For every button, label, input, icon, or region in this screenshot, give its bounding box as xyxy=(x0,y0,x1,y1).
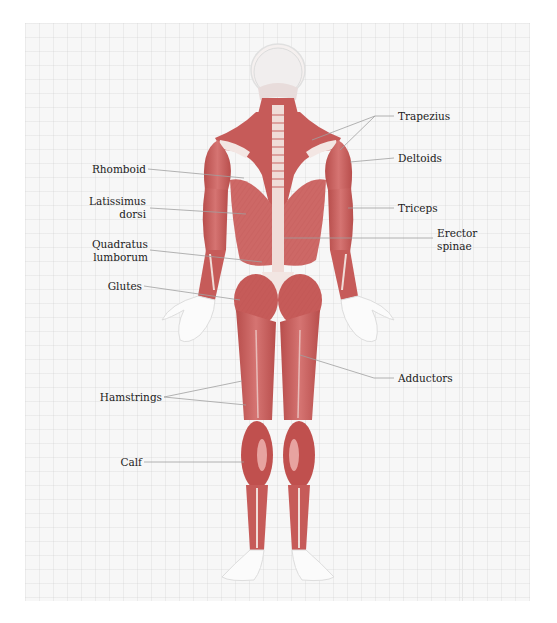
label-calf-text: Calf xyxy=(120,456,142,468)
foot-right xyxy=(292,550,334,581)
label-glutes-text: Glutes xyxy=(108,280,142,292)
label-deltoids: Deltoids xyxy=(398,152,442,165)
label-quadratus-lumborum: Quadratus lumborum xyxy=(76,238,148,264)
label-hamstrings: Hamstrings xyxy=(72,391,162,404)
thigh-right xyxy=(280,310,320,420)
label-latissimus-dorsi: Latissimus dorsi xyxy=(76,195,146,221)
label-erector-line2: spinae xyxy=(437,240,477,253)
upper-arm-right xyxy=(328,188,353,252)
label-quadratus-line2: lumborum xyxy=(76,251,148,264)
label-latissimus-line1: Latissimus xyxy=(76,195,146,208)
label-latissimus-line2: dorsi xyxy=(76,208,146,221)
thigh-left xyxy=(236,310,276,420)
label-adductors-text: Adductors xyxy=(398,372,453,384)
label-rhomboid: Rhomboid xyxy=(86,163,146,176)
label-trapezius: Trapezius xyxy=(398,110,450,123)
label-quadratus-line1: Quadratus xyxy=(76,238,148,251)
label-erector-spinae: Erector spinae xyxy=(437,227,477,253)
upper-arm-left xyxy=(203,188,228,252)
label-triceps: Triceps xyxy=(398,202,438,215)
hand-right xyxy=(341,296,394,342)
head xyxy=(254,48,302,100)
foot-left xyxy=(222,550,264,581)
label-rhomboid-text: Rhomboid xyxy=(92,163,146,175)
label-erector-line1: Erector xyxy=(437,227,477,240)
label-hamstrings-text: Hamstrings xyxy=(100,391,162,403)
label-trapezius-text: Trapezius xyxy=(398,110,450,122)
hand-left xyxy=(162,296,215,342)
spine xyxy=(272,105,284,290)
label-calf: Calf xyxy=(86,456,142,469)
label-adductors: Adductors xyxy=(398,372,453,385)
label-triceps-text: Triceps xyxy=(398,202,438,214)
label-deltoids-text: Deltoids xyxy=(398,152,442,164)
label-glutes: Glutes xyxy=(86,280,142,293)
muscle-figure xyxy=(0,0,557,623)
